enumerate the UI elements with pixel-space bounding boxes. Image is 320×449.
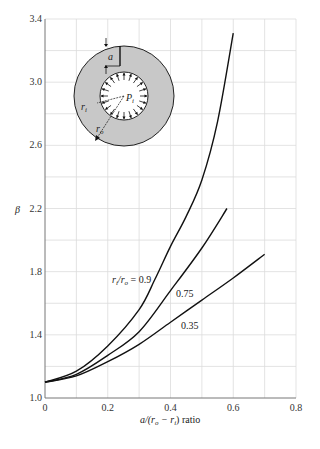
y-tick-label: 3.0 [30, 76, 43, 87]
x-axis-label: a/(ro − ri) ratio [140, 414, 200, 427]
inset-label-a: a [108, 51, 113, 62]
y-tick-label: 2.6 [30, 139, 43, 150]
y-tick-label: 1.0 [30, 392, 43, 403]
x-tick-label: 0.8 [290, 402, 303, 413]
curve-0.35 [45, 254, 265, 382]
x-tick-label: 0.6 [227, 402, 240, 413]
y-tick-label: 1.4 [30, 329, 43, 340]
curve-label-0.9: ri/ro = 0.9 [112, 274, 151, 287]
x-tick-label: 0 [43, 402, 48, 413]
x-tick-label: 0.4 [164, 402, 177, 413]
curve-label-0.75: 0.75 [176, 288, 194, 299]
y-tick-label: 1.8 [30, 266, 43, 277]
y-axis-label: β [14, 204, 20, 215]
chart: 00.20.40.60.81.01.41.82.22.63.03.4 a Pi … [0, 0, 320, 449]
inset-ring-diagram: a Pi ri ro [74, 38, 174, 146]
y-tick-label: 2.2 [30, 203, 43, 214]
y-tick-label: 3.4 [30, 13, 43, 24]
x-tick-label: 0.2 [102, 402, 115, 413]
curve-0.75 [45, 209, 227, 383]
curve-label-0.35: 0.35 [181, 320, 199, 331]
